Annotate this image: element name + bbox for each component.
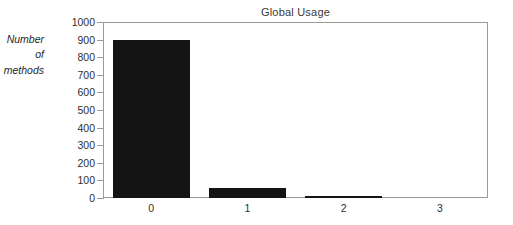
y-axis-title-line-2: of: [0, 47, 44, 63]
bar-0: [113, 40, 190, 198]
y-tick-100: [97, 180, 104, 181]
chart-container: Global Usage Number of methods 010020030…: [0, 0, 513, 225]
y-tick-label-0: 0: [47, 192, 95, 204]
y-tick-label-900: 900: [47, 34, 95, 46]
y-tick-600: [97, 92, 104, 93]
y-tick-label-500: 500: [47, 104, 95, 116]
y-axis-title-line-3: methods: [0, 63, 44, 79]
y-tick-0: [97, 198, 104, 199]
bar-2: [305, 196, 382, 198]
y-tick-300: [97, 145, 104, 146]
y-tick-label-800: 800: [47, 51, 95, 63]
y-tick-700: [97, 75, 104, 76]
chart-title: Global Usage: [103, 6, 488, 18]
y-tick-label-200: 200: [47, 157, 95, 169]
y-tick-1000: [97, 22, 104, 23]
y-tick-label-400: 400: [47, 122, 95, 134]
y-axis-title: Number of methods: [0, 32, 44, 79]
y-tick-200: [97, 163, 104, 164]
bar-1: [209, 188, 286, 198]
x-tick-label-0: 0: [121, 202, 181, 214]
x-tick-label-3: 3: [410, 202, 470, 214]
y-tick-800: [97, 57, 104, 58]
y-tick-900: [97, 40, 104, 41]
y-tick-400: [97, 128, 104, 129]
x-tick-label-1: 1: [217, 202, 277, 214]
y-tick-label-300: 300: [47, 139, 95, 151]
x-tick-label-2: 2: [314, 202, 374, 214]
y-axis-title-line-1: Number: [0, 32, 44, 48]
y-tick-label-700: 700: [47, 69, 95, 81]
y-tick-500: [97, 110, 104, 111]
y-tick-label-1000: 1000: [47, 16, 95, 28]
bar-series: [103, 22, 488, 198]
y-tick-label-100: 100: [47, 174, 95, 186]
y-tick-label-600: 600: [47, 86, 95, 98]
